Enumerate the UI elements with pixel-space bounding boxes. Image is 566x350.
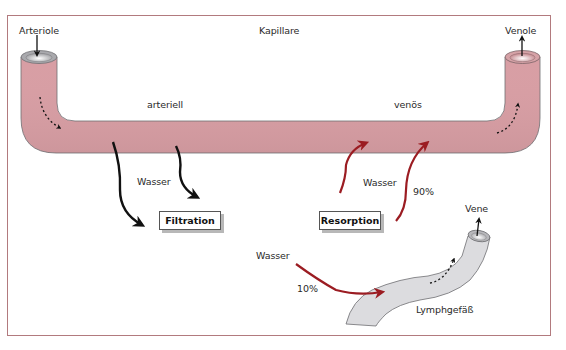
- label-percent-lymph: 10%: [297, 283, 318, 294]
- label-arteriell: arteriell: [147, 99, 183, 110]
- diagram-frame: [8, 16, 551, 336]
- label-wasser-lymph: Wasser: [256, 250, 290, 261]
- label-percent-resorption: 90%: [413, 186, 434, 197]
- label-wasser-filtration: Wasser: [137, 176, 171, 187]
- label-wasser-resorption: Wasser: [363, 177, 397, 188]
- capillary-exchange-diagram: Arteriole Kapillare Venole arteriell ven…: [0, 0, 566, 350]
- resorption-box: Resorption: [319, 211, 381, 230]
- filtration-box: Filtration: [159, 211, 221, 230]
- label-kapillare: Kapillare: [259, 25, 299, 36]
- label-venoes: venös: [394, 99, 422, 110]
- label-vene: Vene: [465, 203, 488, 214]
- label-venole: Venole: [505, 25, 536, 36]
- label-arteriole: Arteriole: [19, 25, 59, 36]
- label-lymphgefaess: Lymphgefäß: [416, 304, 473, 315]
- diagram-canvas: [0, 0, 566, 350]
